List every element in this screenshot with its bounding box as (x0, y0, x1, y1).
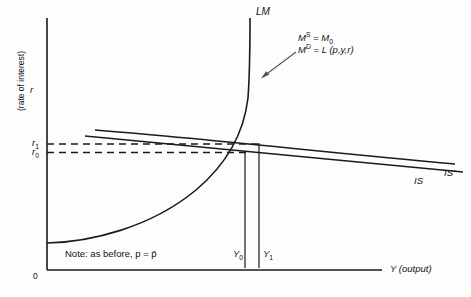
curve-label-is-prime: IS' (444, 168, 455, 179)
curve-is-prime (95, 130, 455, 164)
curve-lm (47, 18, 250, 243)
note-text: Note: as before, p = p̄ (65, 249, 157, 260)
y-axis-caption: (rate of interest) (16, 26, 26, 136)
isl-lm-figure: (rate of interest) r r1 r0 0 Y (output) … (0, 0, 471, 297)
curve-label-lm: LM (256, 6, 270, 18)
md-rhs: L (p,y,r) (322, 44, 354, 55)
y-axis-label-group: (rate of interest) r (6, 28, 28, 148)
tick-label-Y0-sub: 0 (239, 254, 243, 261)
tick-label-r0-sub: 0 (35, 152, 39, 159)
y-axis-symbol: r (30, 84, 33, 95)
origin-label: 0 (33, 272, 38, 282)
tick-label-Y1-sub: 1 (269, 254, 273, 261)
tick-label-Y0: Y0 (233, 249, 243, 262)
annotation-money-demand: MD = L (p,y,r) (298, 43, 354, 56)
md-lhs: M (298, 44, 306, 55)
callout-arrow-icon (261, 52, 296, 79)
x-axis-label: Y (output) (390, 264, 432, 275)
tick-label-Y1: Y1 (263, 249, 273, 262)
curve-label-is: IS (414, 176, 423, 187)
tick-label-r0: r0 (32, 147, 39, 160)
curve-is (85, 136, 463, 172)
ms-lhs: M (298, 32, 306, 43)
